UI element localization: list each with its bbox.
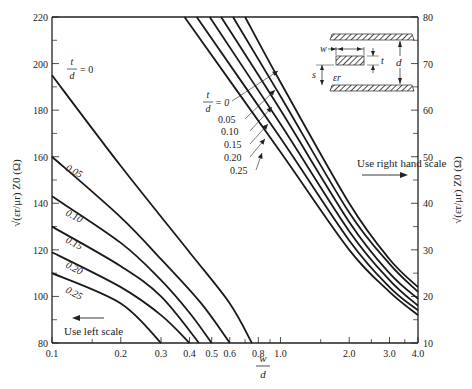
- y-right-axis-label: √(εr/μr) Z0 (Ω): [451, 156, 464, 224]
- svg-text:160: 160: [33, 152, 48, 163]
- svg-text:Use left scale: Use left scale: [64, 325, 123, 337]
- svg-text:0.15: 0.15: [64, 234, 85, 252]
- svg-text:120: 120: [33, 245, 48, 256]
- svg-text:30: 30: [423, 245, 433, 256]
- svg-text:w: w: [259, 352, 267, 364]
- svg-text:s: s: [312, 69, 316, 80]
- stripline-cross-section-inset: w t d s εr: [312, 34, 414, 91]
- use-right-scale-hint: Use right hand scale: [357, 157, 447, 178]
- svg-text:0.15: 0.15: [224, 139, 242, 150]
- svg-text:0.10: 0.10: [221, 126, 239, 137]
- curve-right-t/d = 0: [245, 17, 418, 287]
- stripline-impedance-chart: 0.10.20.30.40.50.60.81.02.03.04.0 801001…: [0, 0, 472, 389]
- svg-text:t: t: [207, 89, 210, 100]
- svg-text:d: d: [206, 103, 212, 114]
- svg-text:√(εr/μr) Z0 (Ω): √(εr/μr) Z0 (Ω): [451, 156, 464, 224]
- svg-text:w: w: [320, 43, 327, 54]
- impedance-curves: [52, 17, 418, 343]
- svg-text:3.0: 3.0: [383, 348, 396, 359]
- svg-text:180: 180: [33, 105, 48, 116]
- svg-text:d: d: [70, 70, 76, 81]
- svg-text:Use right hand scale: Use right hand scale: [357, 157, 447, 169]
- use-left-scale-hint: Use left scale: [64, 315, 123, 337]
- svg-text:0.2: 0.2: [115, 348, 128, 359]
- svg-text:80: 80: [423, 12, 433, 23]
- svg-text:0.05: 0.05: [218, 114, 236, 125]
- svg-text:0.25: 0.25: [64, 284, 85, 302]
- svg-text:100: 100: [33, 291, 48, 302]
- svg-text:√(εr/μr) Z0 (Ω): √(εr/μr) Z0 (Ω): [10, 159, 23, 227]
- y-left-axis-ticks: 80100120140160180200220: [33, 12, 59, 349]
- svg-text:0.25: 0.25: [230, 165, 248, 176]
- svg-text:t: t: [381, 55, 384, 66]
- svg-text:80: 80: [38, 338, 48, 349]
- curve-annotations: td= 00.050.100.150.200.25td= 00.050.100.…: [64, 56, 278, 302]
- svg-text:0.20: 0.20: [224, 152, 242, 163]
- y-right-axis-ticks: 1020304050607080: [411, 12, 433, 349]
- svg-text:2.0: 2.0: [343, 348, 356, 359]
- svg-text:70: 70: [423, 59, 433, 70]
- svg-text:= 0: = 0: [80, 64, 93, 75]
- svg-text:0.5: 0.5: [205, 348, 218, 359]
- svg-text:t: t: [71, 56, 74, 67]
- svg-text:20: 20: [423, 291, 433, 302]
- svg-text:4.0: 4.0: [412, 348, 425, 359]
- svg-text:220: 220: [33, 12, 48, 23]
- plot-frame: [52, 17, 418, 343]
- svg-text:d: d: [396, 56, 402, 68]
- svg-text:140: 140: [33, 198, 48, 209]
- svg-text:10: 10: [423, 338, 433, 349]
- svg-text:0.1: 0.1: [46, 348, 59, 359]
- svg-text:200: 200: [33, 59, 48, 70]
- svg-text:40: 40: [423, 198, 433, 209]
- svg-text:= 0: = 0: [215, 97, 229, 108]
- svg-text:1.0: 1.0: [274, 348, 287, 359]
- svg-text:0.10: 0.10: [64, 207, 85, 225]
- x-axis-ticks: 0.10.20.30.40.50.60.81.02.03.04.0: [46, 337, 425, 359]
- svg-text:0.3: 0.3: [155, 348, 168, 359]
- svg-text:0.6: 0.6: [224, 348, 237, 359]
- svg-text:d: d: [260, 368, 266, 380]
- svg-text:εr: εr: [333, 72, 341, 83]
- svg-text:0.20: 0.20: [64, 259, 85, 277]
- svg-text:60: 60: [423, 105, 433, 116]
- svg-text:0.4: 0.4: [183, 348, 196, 359]
- y-left-axis-label: √(εr/μr) Z0 (Ω): [10, 159, 23, 227]
